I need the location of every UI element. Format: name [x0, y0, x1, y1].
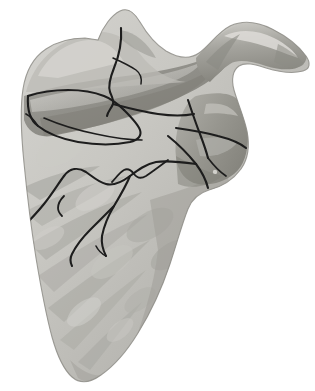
scapula-figure: scapula posterior grayscale photograph w… [0, 0, 315, 391]
scapula-illustration [0, 0, 315, 391]
scapula-body [0, 0, 315, 391]
